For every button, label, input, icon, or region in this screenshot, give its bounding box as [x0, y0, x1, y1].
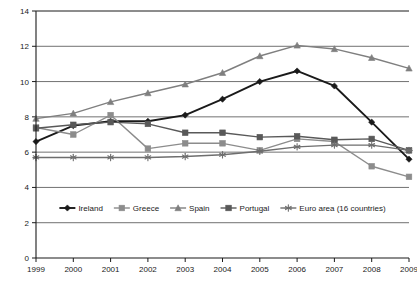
x-tick-label: 2002: [139, 265, 157, 274]
data-point: [257, 134, 263, 140]
data-point: [294, 133, 300, 139]
data-point: [182, 141, 188, 147]
y-tick-label: 2: [25, 219, 30, 228]
data-point: [71, 132, 77, 138]
chart-canvas: 02468101214 1999200020012002200320042005…: [0, 0, 417, 288]
data-point: [220, 141, 226, 147]
data-point: [220, 130, 226, 136]
y-tick-label: 10: [20, 78, 29, 87]
data-point: [145, 121, 151, 127]
y-tick-label: 14: [20, 7, 29, 16]
x-tick-label: 2009: [400, 265, 417, 274]
legend-label: Portugal: [240, 204, 270, 213]
x-tick-label: 2003: [176, 265, 194, 274]
legend-label: Spain: [189, 204, 209, 213]
x-tick-label: 2006: [288, 265, 306, 274]
legend-label: Euro area (16 countries): [299, 204, 386, 213]
x-tick-label: 2004: [214, 265, 232, 274]
data-point: [369, 163, 375, 169]
data-point: [369, 136, 375, 142]
y-tick-label: 6: [25, 148, 30, 157]
data-point: [406, 174, 412, 180]
y-tick-label: 12: [20, 42, 29, 51]
legend-marker: [226, 205, 232, 211]
legend-label: Greece: [133, 204, 160, 213]
y-tick-label: 8: [25, 113, 30, 122]
data-point: [108, 112, 114, 118]
x-tick-label: 2008: [363, 265, 381, 274]
data-point: [182, 130, 188, 136]
x-tick-label: 1999: [27, 265, 45, 274]
y-tick-label: 4: [25, 183, 30, 192]
line-chart: 02468101214 1999200020012002200320042005…: [0, 0, 417, 288]
x-tick-label: 2001: [102, 265, 120, 274]
x-tick-label: 2007: [326, 265, 344, 274]
y-tick-label: 0: [25, 254, 30, 263]
data-point: [108, 119, 114, 125]
legend-label: Ireland: [78, 204, 102, 213]
legend-marker: [119, 205, 125, 211]
data-point: [71, 122, 77, 128]
x-tick-label: 2005: [251, 265, 269, 274]
x-tick-label: 2000: [64, 265, 82, 274]
data-point: [145, 146, 151, 152]
